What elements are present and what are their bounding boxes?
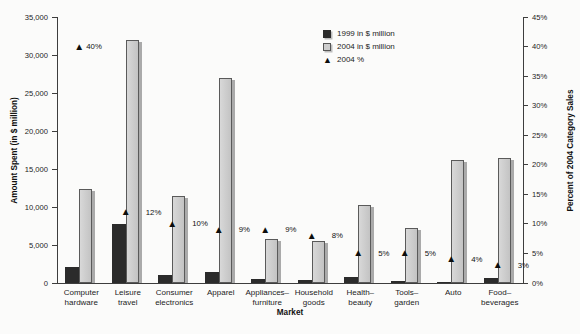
pct-triangle-icon: ▲ bbox=[167, 219, 177, 229]
right-axis-tick bbox=[523, 105, 528, 106]
category-label: Food–beverages bbox=[467, 288, 533, 307]
pct-triangle-icon: ▲ bbox=[214, 225, 224, 235]
bar-2004-auto bbox=[451, 160, 464, 283]
bar-1999-apparel bbox=[205, 272, 219, 283]
left-axis-tick bbox=[52, 131, 57, 132]
right-axis-tick bbox=[523, 283, 528, 284]
right-axis-tick-label: 40% bbox=[532, 42, 562, 51]
pct-triangle-icon: ▲ bbox=[121, 207, 131, 217]
pct-label: 5% bbox=[378, 249, 389, 258]
bar-1999-consumer-electronics bbox=[158, 275, 172, 283]
right-axis-tick bbox=[523, 223, 528, 224]
left-axis-tick bbox=[52, 17, 57, 18]
left-axis-tick-label: 35,000 bbox=[2, 13, 48, 22]
right-axis-tick-label: 25% bbox=[532, 131, 562, 140]
right-axis-tick-label: 20% bbox=[532, 160, 562, 169]
left-axis-tick bbox=[52, 93, 57, 94]
bar-2004-household-goods bbox=[312, 241, 325, 283]
pct-label: 8% bbox=[332, 231, 343, 240]
left-axis-tick bbox=[52, 55, 57, 56]
bar-1999-health-beauty bbox=[344, 277, 358, 283]
bar-shadow bbox=[325, 243, 328, 283]
bar-shadow bbox=[92, 191, 95, 283]
pct-label: 4% bbox=[471, 255, 482, 264]
bar-2004-leisure-travel bbox=[126, 40, 139, 283]
bar-2004-health-beauty bbox=[358, 205, 371, 283]
right-axis-tick bbox=[523, 164, 528, 165]
pct-triangle-icon: ▲ bbox=[493, 260, 503, 270]
right-axis-tick-label: 5% bbox=[532, 249, 562, 258]
right-axis-tick-label: 35% bbox=[532, 72, 562, 81]
bar-shadow bbox=[139, 42, 142, 283]
right-axis-tick bbox=[523, 76, 528, 77]
left-axis-tick-label: 0 bbox=[2, 279, 48, 288]
plot-area: 05,00010,00015,00020,00025,00030,00035,0… bbox=[57, 17, 524, 284]
right-axis-tick-label: 15% bbox=[532, 190, 562, 199]
category-label-line: electronics bbox=[141, 298, 207, 308]
pct-label: 9% bbox=[239, 225, 250, 234]
bar-shadow bbox=[371, 207, 374, 283]
bar-chart: 1999 in $ million 2004 in $ million ▲ 20… bbox=[0, 0, 580, 334]
pct-triangle-icon: ▲ bbox=[260, 225, 270, 235]
left-axis-tick bbox=[52, 207, 57, 208]
category-label-line: garden bbox=[374, 298, 440, 308]
bar-1999-household-goods bbox=[298, 280, 312, 283]
left-axis-title: Amount Spent (in $ million) bbox=[10, 91, 19, 211]
left-axis-tick bbox=[52, 283, 57, 284]
pct-label: 10% bbox=[192, 219, 208, 228]
pct-triangle-icon: ▲ bbox=[353, 248, 363, 258]
bar-1999-leisure-travel bbox=[112, 224, 126, 283]
bar-shadow bbox=[278, 241, 281, 283]
right-axis-title: Percent of 2004 Category Sales bbox=[566, 86, 575, 216]
bar-2004-appliances-furniture bbox=[265, 239, 278, 283]
right-axis-tick bbox=[523, 17, 528, 18]
bar-shadow bbox=[185, 198, 188, 283]
bar-2004-consumer-electronics bbox=[172, 196, 185, 283]
bar-shadow bbox=[232, 80, 235, 283]
bar-shadow bbox=[464, 162, 467, 283]
bar-2004-computer-hardware bbox=[79, 189, 92, 283]
pct-triangle-icon: ▲ bbox=[400, 248, 410, 258]
pct-triangle-icon: ▲ bbox=[446, 254, 456, 264]
pct-label: 5% bbox=[425, 249, 436, 258]
pct-label: 3% bbox=[518, 261, 529, 270]
right-axis-tick bbox=[523, 135, 528, 136]
pct-label: 9% bbox=[285, 225, 296, 234]
right-axis-tick-label: 45% bbox=[532, 13, 562, 22]
right-axis-tick-label: 0% bbox=[532, 279, 562, 288]
bar-1999-auto bbox=[437, 282, 451, 283]
right-axis-tick bbox=[523, 253, 528, 254]
right-axis-tick bbox=[523, 194, 528, 195]
bar-2004-apparel bbox=[219, 78, 232, 283]
bar-shadow bbox=[418, 230, 421, 283]
right-axis-tick-label: 30% bbox=[532, 101, 562, 110]
bar-1999-tools-garden bbox=[391, 281, 405, 283]
right-axis-tick-label: 10% bbox=[532, 219, 562, 228]
pct-triangle-icon: ▲ bbox=[307, 231, 317, 241]
bar-1999-computer-hardware bbox=[65, 267, 79, 283]
left-axis-tick bbox=[52, 169, 57, 170]
category-label-line: beverages bbox=[467, 298, 533, 308]
x-axis-title: Market bbox=[245, 308, 335, 317]
category-label-line: Food– bbox=[467, 288, 533, 298]
left-axis-tick-label: 30,000 bbox=[2, 51, 48, 60]
pct-label: 40% bbox=[86, 42, 102, 51]
left-axis-tick bbox=[52, 245, 57, 246]
pct-triangle-icon: ▲ bbox=[74, 42, 84, 52]
right-axis-tick bbox=[523, 46, 528, 47]
pct-label: 12% bbox=[146, 208, 162, 217]
bar-1999-food-beverages bbox=[484, 278, 498, 283]
left-axis-tick-label: 5,000 bbox=[2, 241, 48, 250]
bar-1999-appliances-furniture bbox=[251, 279, 265, 283]
bar-shadow bbox=[511, 160, 514, 283]
